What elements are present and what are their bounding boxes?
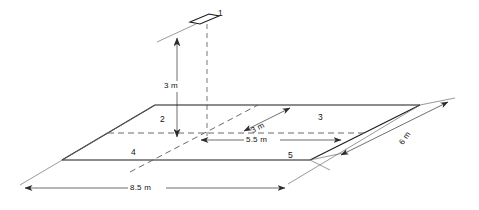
floor-plane-outline xyxy=(62,105,420,160)
diagram-canvas xyxy=(0,0,479,210)
label-width-5-5m: 5.5 m xyxy=(246,136,267,144)
construction-lines xyxy=(310,160,330,170)
label-item-2: 2 xyxy=(160,115,165,124)
suspended-fixture-shape xyxy=(190,14,219,24)
floor-division-diagonal xyxy=(130,105,258,172)
label-item-4: 4 xyxy=(131,148,136,157)
length-dimension-line xyxy=(20,105,420,188)
fixture-leader-line xyxy=(157,24,196,42)
label-height-3m: 3 m xyxy=(164,82,178,90)
label-item-5: 5 xyxy=(288,151,293,160)
label-item-1: 1 xyxy=(218,9,223,18)
technical-diagram: 1 2 3 4 5 3 m 3 m 5.5 m 6 m 8.5 m xyxy=(0,0,479,210)
label-length-8-5m: 8.5 m xyxy=(130,184,151,192)
label-item-3: 3 xyxy=(318,113,323,122)
side-dimension-line xyxy=(310,98,455,160)
